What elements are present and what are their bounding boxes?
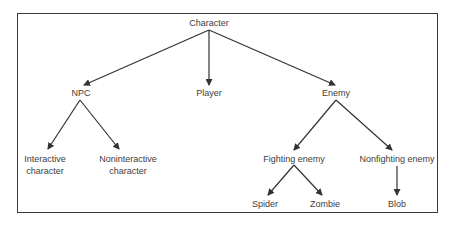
- node-blob: Blob: [388, 198, 406, 210]
- edge-character-enemy: [209, 30, 335, 85]
- node-character: Character: [189, 17, 229, 29]
- node-fighting-enemy: Fighting enemy: [263, 153, 325, 165]
- node-interactive-character: Interactive character: [24, 153, 66, 177]
- edge-enemy-nonfighting: [336, 100, 392, 150]
- edge-character-npc: [84, 30, 209, 85]
- node-interactive-line2: character: [24, 165, 66, 177]
- node-player: Player: [196, 87, 222, 99]
- node-spider: Spider: [252, 198, 278, 210]
- node-noninteractive-line2: character: [99, 165, 157, 177]
- node-nonfighting-enemy: Nonfighting enemy: [359, 153, 434, 165]
- edge-fighting-zombie: [294, 165, 322, 195]
- node-zombie: Zombie: [310, 198, 340, 210]
- edge-npc-interactive: [48, 100, 80, 149]
- node-interactive-line1: Interactive: [24, 153, 66, 165]
- node-noninteractive-line1: Noninteractive: [99, 153, 157, 165]
- edge-enemy-fighting: [294, 100, 336, 150]
- node-noninteractive-character: Noninteractive character: [99, 153, 157, 177]
- node-enemy: Enemy: [322, 87, 350, 99]
- tree-edges: [0, 0, 457, 225]
- edge-npc-noninteractive: [80, 100, 119, 149]
- node-npc: NPC: [71, 87, 90, 99]
- edge-fighting-spider: [268, 165, 294, 195]
